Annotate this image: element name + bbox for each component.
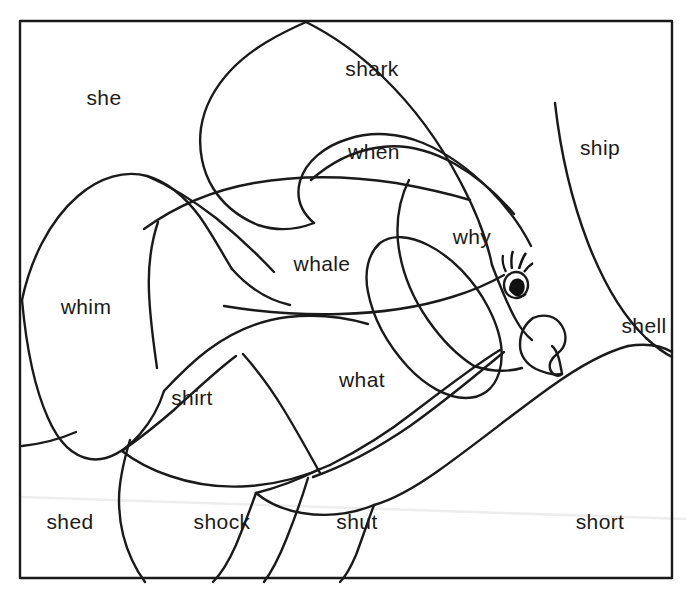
- word-label-she[interactable]: she: [86, 87, 121, 108]
- word-label-shut[interactable]: shut: [336, 511, 377, 532]
- worksheet-page: she shark ship when why whale whim shell…: [0, 0, 686, 604]
- word-label-whale[interactable]: whale: [294, 253, 351, 274]
- word-label-shell[interactable]: shell: [621, 315, 666, 336]
- word-label-ship[interactable]: ship: [580, 137, 620, 158]
- word-label-short[interactable]: short: [576, 511, 625, 532]
- word-label-when[interactable]: when: [348, 141, 400, 162]
- word-label-what[interactable]: what: [339, 369, 385, 390]
- word-label-why[interactable]: why: [453, 226, 492, 247]
- word-label-shirt[interactable]: shirt: [171, 387, 213, 408]
- word-label-whim[interactable]: whim: [61, 296, 112, 317]
- word-label-shock[interactable]: shock: [194, 511, 251, 532]
- word-label-shark[interactable]: shark: [345, 58, 398, 79]
- word-label-shed[interactable]: shed: [46, 511, 93, 532]
